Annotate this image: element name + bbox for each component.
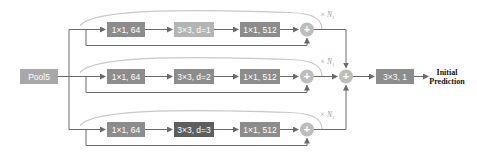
plus-icon: + <box>304 70 310 82</box>
branch-1-repeat: × N1 <box>320 10 334 20</box>
plus-icon: + <box>304 123 310 135</box>
block-label: 1×1, 64 <box>112 25 141 35</box>
block-label: 3×3, d=3 <box>177 125 211 135</box>
plus-icon: + <box>343 70 349 82</box>
block-label: 1×1, 64 <box>112 72 141 82</box>
branch-1-block-3: 1×1, 512 <box>240 22 280 37</box>
block-label: 1×1, 512 <box>243 72 277 82</box>
output-label-line1: Initial <box>437 68 459 77</box>
branch-2-block-2: 3×3, d=2 <box>174 69 214 84</box>
final-block: 3×3, 1 <box>376 69 414 84</box>
output-label-line2: Prediction <box>429 77 465 86</box>
pool5-block: Pool5 <box>20 69 58 84</box>
final-sum: + <box>339 70 353 84</box>
block-label: 3×3, d=1 <box>177 25 211 35</box>
branch-2-block-1: 1×1, 64 <box>107 69 145 84</box>
branch-2-sum: + <box>300 70 314 84</box>
branch-3-block-1: 1×1, 64 <box>107 122 145 137</box>
branch-3-block-3: 1×1, 512 <box>240 122 280 137</box>
branch-1: 1×1, 64 3×3, d=1 1×1, 512 + × N1 <box>107 10 334 37</box>
plus-icon: + <box>304 23 310 35</box>
final-block-label: 3×3, 1 <box>383 72 407 82</box>
branch-3-sum: + <box>300 123 314 137</box>
branch-3-out-line <box>314 86 346 130</box>
branch-1-block-1: 1×1, 64 <box>107 22 145 37</box>
branch-2: 1×1, 64 3×3, d=2 1×1, 512 + × N1 <box>107 57 334 84</box>
branch-2-block-3: 1×1, 512 <box>240 69 280 84</box>
branch-3-repeat: × N1 <box>320 110 334 120</box>
branch-1-sum: + <box>300 23 314 37</box>
branch-3: 1×1, 64 3×3, d=3 1×1, 512 + × N1 <box>107 110 334 137</box>
branch-2-repeat: × N1 <box>320 57 334 67</box>
branch-3-block-2: 3×3, d=3 <box>174 122 214 137</box>
block-label: 1×1, 512 <box>243 25 277 35</box>
pool5-label: Pool5 <box>28 72 50 82</box>
block-label: 1×1, 512 <box>243 125 277 135</box>
aspp-diagram: Pool5 1×1, 64 3×3, d=1 1×1, 512 + × N1 1… <box>0 0 477 162</box>
block-label: 3×3, d=2 <box>177 72 211 82</box>
branch-1-block-2: 3×3, d=1 <box>174 22 214 37</box>
block-label: 1×1, 64 <box>112 125 141 135</box>
